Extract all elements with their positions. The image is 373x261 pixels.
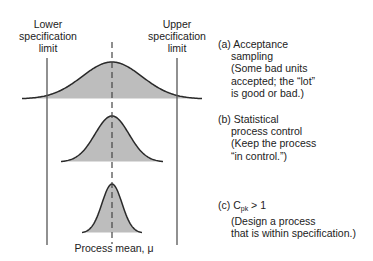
lower-label-line: limit (8, 42, 88, 54)
caption-c-label: (c) (218, 199, 230, 211)
caption-a-title: Acceptance (233, 38, 288, 50)
process-mean-label: Process mean, μ (64, 242, 164, 254)
upper-label-line: specification (137, 30, 217, 42)
cpk-condition: > 1 (248, 199, 266, 211)
caption-c-note: that is within specification.) (218, 227, 356, 239)
caption-c-note: (Design a process (218, 215, 356, 227)
upper-label-line: Upper (137, 18, 217, 30)
caption-b-title2: process control (218, 125, 316, 137)
caption-a-note: is good or bad.) (218, 87, 315, 99)
upper-spec-limit-label: Upper specification limit (137, 18, 217, 54)
upper-label-line: limit (137, 42, 217, 54)
caption-b-note: (Keep the process (218, 137, 316, 149)
caption-b-label: (b) (218, 113, 231, 125)
lower-label-line: specification (8, 30, 88, 42)
caption-b-note: “in control.”) (218, 150, 316, 162)
caption-a-title2: sampling (218, 50, 315, 62)
lower-spec-limit-label: Lower specification limit (8, 18, 88, 54)
caption-b-title: Statistical (234, 113, 279, 125)
caption-c: (c) Cpk > 1 (Design a process that is wi… (218, 199, 356, 240)
caption-a-label: (a) (218, 38, 231, 50)
caption-a-note: (Some bad units (218, 62, 315, 74)
caption-a-note: accepted; the “lot” (218, 75, 315, 87)
cpk-symbol: C (233, 199, 241, 211)
caption-b: (b) Statistical process control (Keep th… (218, 113, 316, 162)
caption-a: (a) Acceptance sampling (Some bad units … (218, 38, 315, 99)
lower-label-line: Lower (8, 18, 88, 30)
